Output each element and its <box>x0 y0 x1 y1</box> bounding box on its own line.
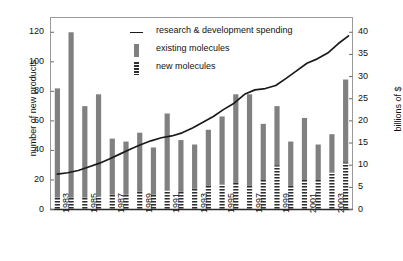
legend-line-swatch <box>130 32 143 33</box>
bar-new-1985 <box>82 198 87 210</box>
bar-existing-1993 <box>192 145 197 189</box>
bar-existing-1999 <box>274 106 279 165</box>
bar-new-1996 <box>233 183 238 210</box>
bar-new-1989 <box>137 192 142 210</box>
bar-new-1983 <box>55 198 60 210</box>
bars-existing-molecules <box>55 32 348 197</box>
bar-new-1988 <box>123 195 128 210</box>
bar-existing-1987 <box>110 139 115 195</box>
bar-new-1991 <box>165 190 170 209</box>
bar-existing-1985 <box>82 106 87 198</box>
bar-existing-1998 <box>261 124 266 180</box>
bar-new-1987 <box>110 195 115 210</box>
legend-label-2: new molecules <box>156 61 216 71</box>
bar-new-1997 <box>247 186 252 210</box>
bar-new-2000 <box>288 186 293 210</box>
bar-existing-2000 <box>288 142 293 186</box>
bar-existing-2001 <box>302 118 307 180</box>
bar-existing-1996 <box>233 94 238 183</box>
bar-existing-2002 <box>316 145 321 180</box>
bar-new-2003 <box>329 173 334 210</box>
bar-new-1999 <box>274 165 279 209</box>
legend-solid-bar-swatch <box>134 44 139 57</box>
bar-existing-1986 <box>96 94 101 196</box>
bar-existing-2003 <box>329 134 334 172</box>
bar-existing-1989 <box>137 133 142 192</box>
bar-new-2004 <box>343 162 348 209</box>
bar-existing-1991 <box>165 114 170 191</box>
bar-existing-1994 <box>206 130 211 186</box>
bar-new-2002 <box>316 180 321 210</box>
bar-new-1990 <box>151 195 156 210</box>
bar-existing-1992 <box>178 140 183 192</box>
bar-new-1993 <box>192 189 197 210</box>
bar-new-1995 <box>219 184 224 209</box>
legend-label-1: existing molecules <box>156 43 230 53</box>
bar-existing-2004 <box>343 80 348 163</box>
bar-new-1998 <box>261 180 266 210</box>
bar-new-2001 <box>302 180 307 210</box>
bar-new-1986 <box>96 196 101 209</box>
bar-new-1992 <box>178 192 183 210</box>
bar-existing-1997 <box>247 94 252 186</box>
bar-new-1984 <box>68 198 73 210</box>
legend-hatched-bar-swatch <box>134 62 139 75</box>
bar-new-1994 <box>206 186 211 210</box>
bar-existing-1983 <box>55 88 60 197</box>
bar-existing-1995 <box>219 116 224 184</box>
bar-existing-1990 <box>151 147 156 194</box>
legend-label-0: research & development spending <box>156 25 293 35</box>
